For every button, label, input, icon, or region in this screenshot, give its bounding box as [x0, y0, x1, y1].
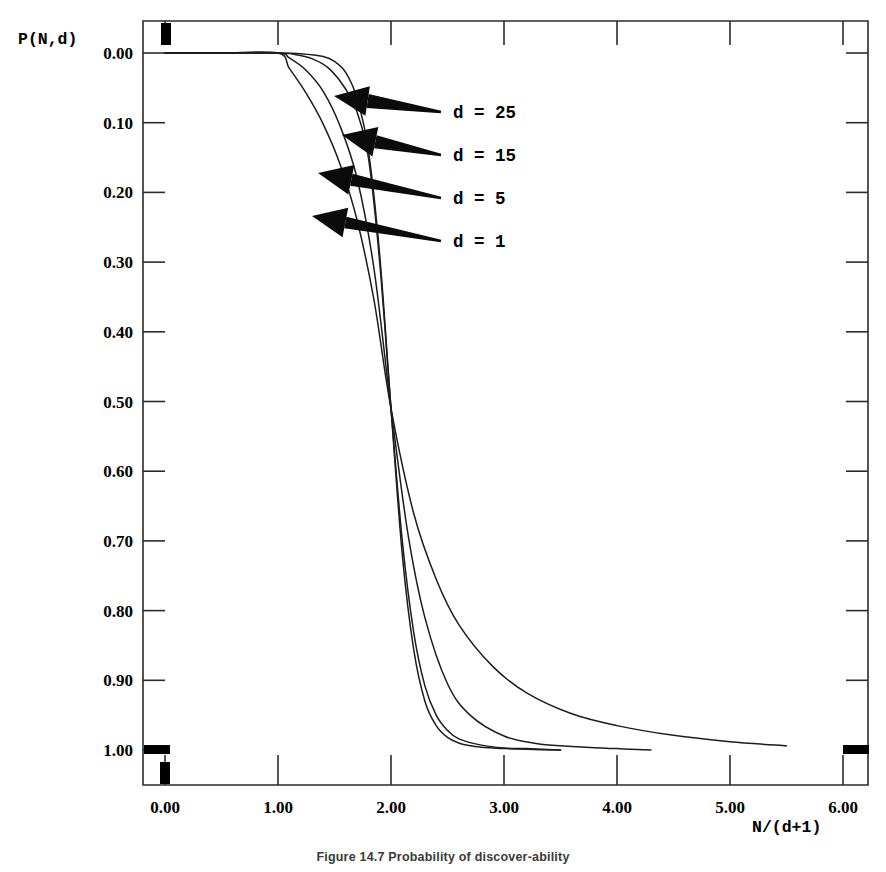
y-tick-labels: 1.000.900.800.700.600.500.400.300.200.10… — [103, 44, 133, 760]
y-tick-label: 0.20 — [103, 183, 133, 202]
y-tick-label: 0.10 — [103, 114, 133, 133]
arrow-shaft — [374, 135, 441, 156]
x-tick-label: 6.00 — [828, 798, 858, 817]
x-tick-label: 4.00 — [602, 798, 632, 817]
y-tick-label: 0.80 — [103, 602, 133, 621]
bottom-zero-mark — [160, 762, 170, 784]
arrow-head — [342, 127, 378, 156]
scan-artifacts — [144, 23, 869, 784]
annotation-arrow-2 — [318, 165, 441, 199]
curve-d-5 — [165, 53, 651, 750]
arrow-head — [334, 86, 370, 116]
y-tick-label: 0.60 — [103, 462, 133, 481]
plot-frame — [143, 21, 868, 785]
annotation-arrow-3 — [312, 208, 441, 242]
annotation-label-1: d = 15 — [453, 146, 516, 166]
arrow-shaft — [344, 217, 441, 242]
chart-svg: P(N,d) N/(d+1) 1.000.900.800.700.600.500… — [0, 0, 886, 872]
y-tick-label: 1.00 — [103, 741, 133, 760]
x-tick-label: 3.00 — [489, 798, 519, 817]
x-axis-label: N/(d+1) — [752, 818, 821, 837]
y-tick-label: 0.30 — [103, 253, 133, 272]
arrow-head — [318, 165, 354, 194]
left-zero-mark — [144, 745, 170, 754]
right-zero-mark — [843, 745, 869, 754]
annotation-arrow-1 — [342, 127, 441, 156]
x-tick-label: 1.00 — [263, 798, 293, 817]
x-axis-ticks — [165, 21, 843, 785]
x-tick-label: 5.00 — [715, 798, 745, 817]
annotation-label-2: d = 5 — [453, 189, 506, 209]
y-tick-label: 0.40 — [103, 323, 133, 342]
y-tick-label: 0.00 — [103, 44, 133, 63]
figure-container: P(N,d) N/(d+1) 1.000.900.800.700.600.500… — [0, 0, 886, 872]
arrow-head — [312, 208, 348, 237]
annotation-arrow-0 — [334, 86, 441, 116]
y-tick-label: 0.70 — [103, 532, 133, 551]
annotation-label-3: d = 1 — [453, 232, 506, 252]
x-tick-labels: 0.001.002.003.004.005.006.00 — [150, 798, 858, 817]
y-tick-label: 0.50 — [103, 393, 133, 412]
arrow-shaft — [367, 94, 442, 113]
annotation-label-0: d = 25 — [453, 103, 516, 123]
top-edge-mark — [161, 23, 171, 45]
x-tick-label: 2.00 — [376, 798, 406, 817]
y-tick-label: 0.90 — [103, 671, 133, 690]
annotation-labels: d = 25d = 15d = 5d = 1 — [453, 103, 516, 252]
x-tick-label: 0.00 — [150, 798, 180, 817]
arrow-shaft — [350, 174, 441, 199]
y-axis-label: P(N,d) — [18, 30, 77, 49]
figure-caption: Figure 14.7 Probability of discover-abil… — [0, 850, 886, 872]
